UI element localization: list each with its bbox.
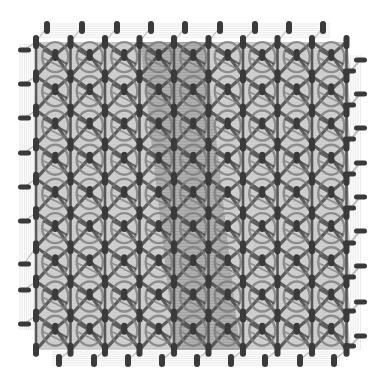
lattice-node <box>137 343 143 357</box>
boundary-node-right-inner <box>343 137 356 142</box>
lattice-node <box>156 220 162 232</box>
lattice-node <box>206 172 212 186</box>
lattice-node <box>240 138 246 152</box>
boundary-node-bottom <box>331 354 337 367</box>
lattice-node <box>52 323 58 335</box>
boundary-node-bottom <box>56 354 62 367</box>
lattice-node <box>259 220 265 232</box>
lattice-node <box>259 152 265 164</box>
boundary-node-right-inner <box>343 344 356 349</box>
lattice-node <box>87 118 93 130</box>
lattice-node <box>259 118 265 130</box>
lattice-node <box>121 220 127 232</box>
boundary-node-right <box>354 334 367 339</box>
lattice-node <box>52 186 58 198</box>
lattice-node <box>225 254 231 266</box>
lattice-node <box>294 49 300 61</box>
lattice-node <box>240 343 246 357</box>
lattice-node <box>156 186 162 198</box>
lattice-node <box>259 186 265 198</box>
lattice-node <box>121 83 127 95</box>
lattice-node <box>171 138 177 152</box>
lattice-node <box>259 323 265 335</box>
lattice-node <box>190 220 196 232</box>
lattice-node <box>156 323 162 335</box>
lattice-node <box>121 254 127 266</box>
lattice-node <box>259 83 265 95</box>
lattice-node <box>294 289 300 301</box>
lattice-node <box>309 103 315 117</box>
lattice-node <box>171 343 177 357</box>
lattice-node <box>206 343 212 357</box>
boundary-node-top <box>320 21 326 34</box>
boundary-node-left <box>18 48 31 53</box>
boundary-node-right <box>354 161 367 166</box>
lattice-node <box>328 83 334 95</box>
lattice-node <box>121 186 127 198</box>
lattice-node <box>309 69 315 83</box>
lattice-node <box>68 274 74 288</box>
boundary-node-right-inner <box>343 275 356 280</box>
lattice-node <box>206 274 212 288</box>
lattice-node <box>294 118 300 130</box>
boundary-node-right-inner <box>343 103 356 108</box>
lattice-node <box>294 186 300 198</box>
lattice-node <box>102 309 108 323</box>
lattice-node <box>190 152 196 164</box>
lattice-node <box>52 289 58 301</box>
boundary-node-top <box>44 21 50 34</box>
lattice-node <box>275 309 281 323</box>
lattice-node <box>240 240 246 254</box>
lattice-node <box>33 35 39 49</box>
boundary-node-top <box>148 21 154 34</box>
lattice-node <box>102 69 108 83</box>
lattice-node <box>309 35 315 49</box>
lattice-node <box>294 254 300 266</box>
lattice-node <box>52 118 58 130</box>
lattice-node <box>121 49 127 61</box>
lattice-node <box>87 49 93 61</box>
lattice-node <box>328 186 334 198</box>
lattice-node <box>309 172 315 186</box>
lattice-node <box>294 323 300 335</box>
boundary-node-left <box>18 262 31 267</box>
lattice-node <box>171 69 177 83</box>
lattice-node <box>52 152 58 164</box>
lattice-node <box>225 83 231 95</box>
lattice-node <box>275 240 281 254</box>
lattice-node <box>68 35 74 49</box>
lattice-node <box>102 274 108 288</box>
boundary-node-bottom <box>262 354 268 367</box>
lattice-node <box>275 35 281 49</box>
lattice-node <box>190 254 196 266</box>
lattice-node <box>137 309 143 323</box>
lattice-node <box>309 240 315 254</box>
lattice-node <box>156 49 162 61</box>
graph-canvas <box>0 0 381 382</box>
lattice-node <box>33 343 39 357</box>
lattice-node <box>33 274 39 288</box>
lattice-node <box>294 220 300 232</box>
boundary-node-top <box>114 21 120 34</box>
lattice-node <box>137 172 143 186</box>
boundary-node-bottom <box>125 354 131 367</box>
lattice-node <box>33 138 39 152</box>
lattice-node <box>171 103 177 117</box>
lattice-node <box>328 323 334 335</box>
lattice-node <box>328 49 334 61</box>
lattice-node <box>87 220 93 232</box>
boundary-node-left <box>18 288 31 293</box>
lattice-node <box>156 254 162 266</box>
lattice-node <box>87 289 93 301</box>
lattice-node <box>121 289 127 301</box>
lattice-node <box>328 152 334 164</box>
boundary-node-right <box>354 300 367 305</box>
lattice-node <box>171 172 177 186</box>
lattice-node <box>171 35 177 49</box>
lattice-node <box>275 69 281 83</box>
lattice-node <box>225 323 231 335</box>
boundary-node-bottom <box>91 354 97 367</box>
lattice-node <box>294 152 300 164</box>
boundary-node-right <box>354 92 367 97</box>
boundary-node-right <box>354 126 367 131</box>
